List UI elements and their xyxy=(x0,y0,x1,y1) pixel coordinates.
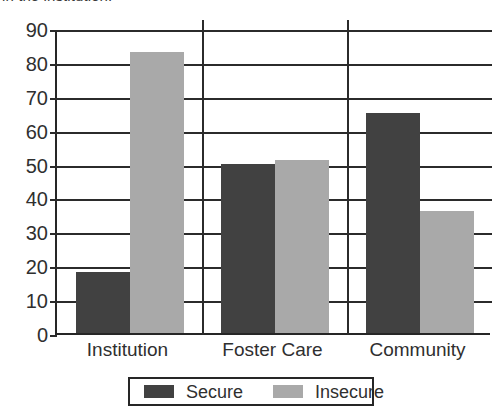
y-axis-tick xyxy=(50,335,57,337)
y-axis-tick xyxy=(50,267,57,269)
chart-legend: Secure Insecure xyxy=(128,377,374,406)
bar-insecure-institution xyxy=(130,52,184,333)
plot-wrapper: 0102030405060708090 InstitutionFoster Ca… xyxy=(0,20,502,370)
y-axis-tick xyxy=(50,199,57,201)
y-axis-tick-label: 60 xyxy=(0,122,48,142)
legend-entry-secure: Secure xyxy=(144,379,243,404)
plot-area xyxy=(55,30,490,335)
legend-label-secure: Secure xyxy=(186,383,243,401)
bar-insecure-community xyxy=(420,211,474,333)
y-axis-tick-label: 70 xyxy=(0,88,48,108)
y-axis-tick-label: 30 xyxy=(0,223,48,243)
y-axis-tick-label: 40 xyxy=(0,189,48,209)
x-axis-tick-label: Community xyxy=(345,338,490,362)
y-axis-tick-label: 0 xyxy=(0,325,48,345)
y-axis-tick xyxy=(50,98,57,100)
y-axis-tick xyxy=(50,166,57,168)
truncated-caption: in the institution. xyxy=(0,0,502,12)
y-axis-tick-label: 90 xyxy=(0,20,48,40)
bar-chart-figure: in the institution. 0102030405060708090 … xyxy=(0,0,502,414)
gridline xyxy=(57,64,492,66)
y-axis-tick-label: 80 xyxy=(0,54,48,74)
bar-insecure-foster-care xyxy=(275,160,329,333)
y-axis-tick-label: 10 xyxy=(0,291,48,311)
gridline xyxy=(57,30,492,32)
y-axis-tick xyxy=(50,30,57,32)
y-axis-tick-labels: 0102030405060708090 xyxy=(0,20,48,335)
legend-swatch-secure-icon xyxy=(144,385,174,398)
legend-entry-insecure: Insecure xyxy=(273,379,384,404)
x-axis-tick-labels: InstitutionFoster CareCommunity xyxy=(55,338,490,368)
legend-swatch-insecure-icon xyxy=(273,385,303,398)
y-axis-tick xyxy=(50,301,57,303)
caption-text: in the institution. xyxy=(2,0,112,4)
group-separator xyxy=(202,20,204,335)
y-axis-tick-label: 50 xyxy=(0,156,48,176)
legend-label-insecure: Insecure xyxy=(315,383,384,401)
y-axis-tick xyxy=(50,233,57,235)
x-axis-tick-label: Institution xyxy=(55,338,200,362)
bar-secure-institution xyxy=(76,272,130,333)
x-axis-tick-label: Foster Care xyxy=(200,338,345,362)
y-axis-tick-label: 20 xyxy=(0,257,48,277)
gridline xyxy=(57,132,492,134)
y-axis-tick xyxy=(50,64,57,66)
bar-secure-foster-care xyxy=(221,164,275,333)
bar-secure-community xyxy=(366,113,420,333)
gridline xyxy=(57,98,492,100)
y-axis-tick xyxy=(50,132,57,134)
group-separator xyxy=(347,20,349,335)
